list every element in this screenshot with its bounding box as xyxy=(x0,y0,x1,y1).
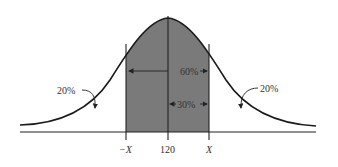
left-tail-label: 20% xyxy=(57,85,75,96)
tick-label-neg-x: −X xyxy=(119,144,133,155)
normal-curve-diagram: 60% 30% 20% 20% −X 120 X xyxy=(0,0,338,167)
tick-label-x: X xyxy=(205,144,213,155)
tick-label-mean: 120 xyxy=(160,144,175,155)
label-60: 60% xyxy=(180,66,198,77)
label-30: 30% xyxy=(177,99,195,110)
right-tail-label: 20% xyxy=(260,83,278,94)
